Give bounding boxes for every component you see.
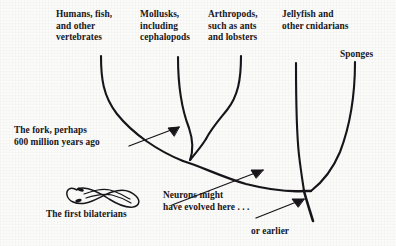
annotation-first-bilaterians: The first bilaterians — [46, 209, 164, 221]
tip-label-mollusks: Mollusks, including cephalopods — [140, 9, 210, 44]
branch-sponges — [311, 62, 355, 191]
branch-bilaterian-stem — [183, 161, 304, 191]
bilaterian-worm-icon — [67, 188, 139, 207]
branch-arthropods — [206, 56, 241, 139]
annotation-or-earlier: or earlier — [251, 226, 311, 238]
arrow-to-fork-icon — [129, 127, 179, 146]
tip-label-humans: Humans, fish, and other vertebrates — [56, 9, 134, 44]
annotation-fork: The fork, perhaps 600 million years ago — [14, 125, 126, 148]
tip-label-arthropods: Arthropods, such as ants and lobsters — [208, 9, 282, 44]
tip-label-jellyfish: Jellyfish and other cnidarians — [282, 9, 368, 32]
annotation-neurons: Neurons might have evolved here . . . — [163, 190, 269, 213]
tip-label-sponges: Sponges — [340, 49, 392, 61]
branch-mollusks — [178, 57, 192, 160]
evolutionary-tree-figure: Humans, fish, and other vertebrates Moll… — [0, 0, 396, 246]
branch-root-stem — [304, 191, 313, 221]
branch-cnidarians — [296, 63, 304, 191]
